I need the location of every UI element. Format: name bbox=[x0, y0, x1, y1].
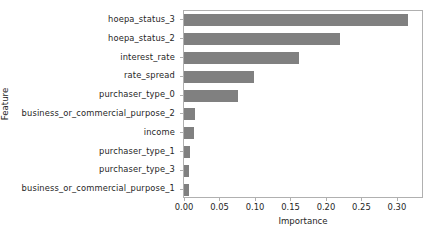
bar-row bbox=[184, 86, 238, 105]
plot-area bbox=[183, 10, 423, 198]
y-axis-tick-mark bbox=[180, 38, 183, 39]
bar-row bbox=[184, 124, 194, 143]
x-axis-tick-mark bbox=[361, 198, 362, 201]
y-axis-tick-label: rate_spread bbox=[124, 66, 175, 85]
bar bbox=[184, 90, 238, 102]
x-axis-tick-mark bbox=[219, 198, 220, 201]
x-axis-tick-mark bbox=[255, 198, 256, 201]
y-axis-tick-mark bbox=[180, 170, 183, 171]
y-axis-tick-label: income bbox=[144, 123, 175, 142]
y-axis-tick-label: business_or_commercial_purpose_1 bbox=[22, 179, 175, 198]
x-axis-tick-label: 0.00 bbox=[164, 202, 204, 212]
x-axis-tick-label: 0.05 bbox=[199, 202, 239, 212]
bar bbox=[184, 127, 194, 139]
x-axis-tick-label: 0.30 bbox=[377, 202, 417, 212]
y-axis-tick-label: hoepa_status_3 bbox=[108, 10, 175, 29]
y-axis-tick-mark bbox=[180, 57, 183, 58]
x-axis-tick-mark bbox=[397, 198, 398, 201]
x-axis-title: Importance bbox=[183, 216, 423, 226]
bar bbox=[184, 33, 340, 45]
y-axis-tick-label: purchaser_type_0 bbox=[99, 85, 175, 104]
bar-row bbox=[184, 143, 190, 162]
y-axis-tick-mark bbox=[180, 189, 183, 190]
y-axis-tick-mark bbox=[180, 95, 183, 96]
bar-row bbox=[184, 49, 299, 68]
bar bbox=[184, 146, 190, 158]
y-axis-tick-label: hoepa_status_2 bbox=[108, 29, 175, 48]
bar-row bbox=[184, 180, 189, 199]
bar-row bbox=[184, 67, 254, 86]
x-axis-tick-label: 0.15 bbox=[270, 202, 310, 212]
bar-row bbox=[184, 30, 340, 49]
y-axis-tick-label: business_or_commercial_purpose_2 bbox=[22, 104, 175, 123]
x-axis-tick-mark bbox=[290, 198, 291, 201]
bar bbox=[184, 52, 299, 64]
bar bbox=[184, 108, 195, 120]
y-axis-tick-mark bbox=[180, 132, 183, 133]
y-axis-tick-label: purchaser_type_1 bbox=[99, 142, 175, 161]
x-axis-tick-mark bbox=[326, 198, 327, 201]
y-axis-tick-mark bbox=[180, 19, 183, 20]
y-axis-tick-label: purchaser_type_3 bbox=[99, 160, 175, 179]
y-axis-tick-mark bbox=[180, 76, 183, 77]
bar bbox=[184, 71, 254, 83]
x-axis-tick-label: 0.25 bbox=[341, 202, 381, 212]
y-axis-tick-label: interest_rate bbox=[120, 48, 175, 67]
y-axis-tick-mark bbox=[180, 151, 183, 152]
y-axis-tick-labels: hoepa_status_3hoepa_status_2interest_rat… bbox=[0, 10, 180, 198]
x-axis-tick-label: 0.20 bbox=[306, 202, 346, 212]
bars-layer bbox=[184, 11, 422, 197]
bar bbox=[184, 14, 408, 26]
x-axis-tick-mark bbox=[184, 198, 185, 201]
x-axis-tick-label: 0.10 bbox=[235, 202, 275, 212]
bar-row bbox=[184, 11, 408, 30]
y-axis-tick-mark bbox=[180, 113, 183, 114]
bar bbox=[184, 165, 189, 177]
bar-row bbox=[184, 105, 195, 124]
bar bbox=[184, 184, 189, 196]
bar-row bbox=[184, 161, 189, 180]
feature-importance-chart: Feature hoepa_status_3hoepa_status_2inte… bbox=[0, 0, 441, 241]
